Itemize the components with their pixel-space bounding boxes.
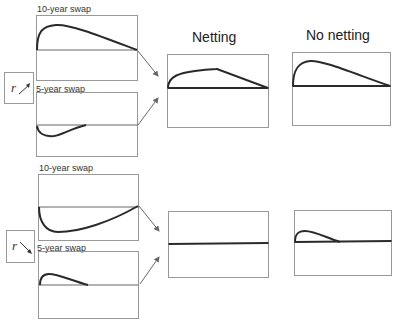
scenario1-no-netting-panel — [293, 53, 391, 126]
scenario2-five-year-panel — [39, 252, 139, 319]
scenario2-no-netting-panel — [295, 211, 392, 276]
scenario1-netting-panel — [168, 55, 269, 128]
scenario1-five-year-panel — [37, 93, 138, 157]
scenario2-netting-panel — [169, 212, 269, 278]
scenario1-ten-year-panel — [37, 16, 138, 81]
arrow-five-year-to-netting — [138, 98, 158, 125]
arrow-ten-year-to-netting — [138, 51, 158, 76]
arrow-five-year-to-netting — [140, 257, 159, 284]
arrow-ten-year-to-netting — [139, 206, 159, 231]
scenario2-ten-year-panel — [39, 175, 139, 241]
diagram-canvas — [0, 0, 399, 328]
